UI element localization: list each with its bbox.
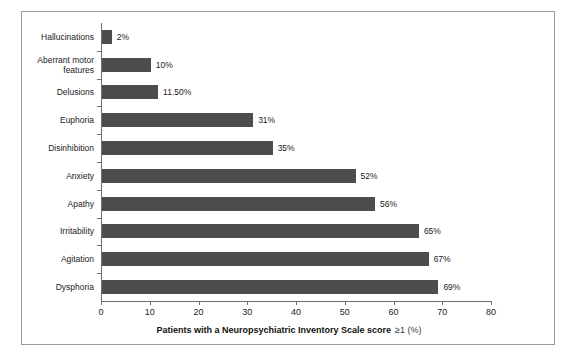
bar-row: Delusions11.50% (101, 79, 491, 107)
bar-row: Euphoria31% (101, 106, 491, 134)
x-axis-title: Patients with a Neuropsychiatric Invento… (22, 325, 556, 335)
x-axis-tick-label: 60 (388, 307, 398, 317)
category-label: Apathy (0, 198, 94, 209)
category-label: Irritability (0, 226, 94, 237)
bar-value-label: 56% (380, 199, 397, 209)
x-axis-tick (150, 301, 151, 305)
bar-row: Aberrant motor features10% (101, 51, 491, 79)
x-axis-title-main: Patients with a Neuropsychiatric Invento… (156, 325, 391, 335)
category-label: Disinhibition (0, 143, 94, 154)
y-axis-tick (97, 51, 101, 52)
bar-value-label: 65% (424, 226, 441, 236)
bar-row: Anxiety52% (101, 162, 491, 190)
plot-area: Hallucinations2%Aberrant motor features1… (101, 23, 491, 301)
bar: 35% (102, 141, 273, 155)
x-axis-tick-label: 10 (145, 307, 155, 317)
bar-row: Apathy56% (101, 190, 491, 218)
category-label: Delusions (0, 87, 94, 98)
bar-value-label: 2% (117, 32, 129, 42)
category-label: Aberrant motor features (0, 54, 94, 75)
y-axis-tick (97, 218, 101, 219)
x-axis-tick-label: 50 (340, 307, 350, 317)
y-axis-tick (97, 245, 101, 246)
figure-frame: Hallucinations2%Aberrant motor features1… (21, 11, 555, 345)
y-axis-tick (97, 106, 101, 107)
x-axis-tick (199, 301, 200, 305)
x-axis-tick (394, 301, 395, 305)
x-axis-tick-label: 70 (437, 307, 447, 317)
category-label: Hallucinations (0, 32, 94, 43)
bar-value-label: 31% (258, 115, 275, 125)
y-axis-tick (97, 273, 101, 274)
bar-row: Agitation67% (101, 245, 491, 273)
x-axis-tick (442, 301, 443, 305)
y-axis-tick (97, 162, 101, 163)
bar-row: Dysphoria69% (101, 273, 491, 301)
bar: 31% (102, 113, 253, 127)
bar-value-label: 35% (278, 143, 295, 153)
bar-value-label: 10% (156, 60, 173, 70)
bar: 65% (102, 224, 419, 238)
bar-value-label: 67% (434, 254, 451, 264)
bar: 11.50% (102, 85, 158, 99)
bar-value-label: 69% (443, 282, 460, 292)
bar-row: Irritability65% (101, 218, 491, 246)
bar: 10% (102, 58, 151, 72)
bar-row: Disinhibition35% (101, 134, 491, 162)
y-axis-tick (97, 134, 101, 135)
bar: 52% (102, 169, 356, 183)
bar: 69% (102, 280, 438, 294)
category-label: Dysphoria (0, 282, 94, 293)
x-axis-tick-label: 20 (193, 307, 203, 317)
x-axis-tick (101, 301, 102, 305)
category-label: Anxiety (0, 171, 94, 182)
y-axis-tick (97, 79, 101, 80)
bar: 56% (102, 197, 375, 211)
x-axis-tick-label: 0 (98, 307, 103, 317)
x-axis-tick-label: 30 (242, 307, 252, 317)
x-axis-tick (247, 301, 248, 305)
x-axis-tick (491, 301, 492, 305)
y-axis-tick (97, 190, 101, 191)
x-axis-title-suffix: ≥1 (%) (395, 325, 421, 335)
bar: 67% (102, 252, 429, 266)
x-axis-tick (296, 301, 297, 305)
category-label: Agitation (0, 254, 94, 265)
bar-value-label: 52% (361, 171, 378, 181)
category-label: Euphoria (0, 115, 94, 126)
bar-value-label: 11.50% (163, 87, 191, 97)
bar: 2% (102, 30, 112, 44)
x-axis-tick (345, 301, 346, 305)
x-axis-tick-label: 80 (486, 307, 496, 317)
x-axis-tick-label: 40 (291, 307, 301, 317)
bar-row: Hallucinations2% (101, 23, 491, 51)
